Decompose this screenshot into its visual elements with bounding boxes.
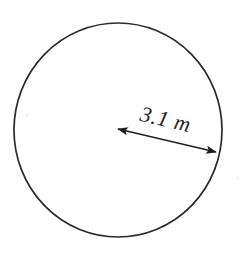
scan-speck-right-icon <box>237 177 239 179</box>
scan-speck-left-icon <box>26 114 28 116</box>
circle-outline <box>14 23 222 237</box>
geometry-figure: 3.1 m <box>0 0 247 255</box>
figure-canvas <box>0 0 247 255</box>
